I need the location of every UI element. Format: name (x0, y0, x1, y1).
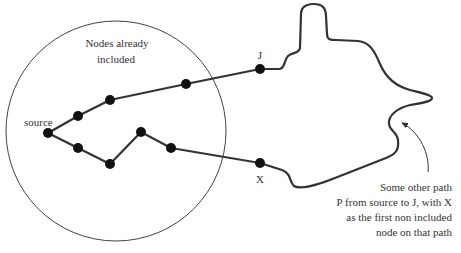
other-path-p (260, 4, 432, 187)
annotation-text: Some other path P from source to J, with… (337, 181, 453, 238)
j-label: J (258, 49, 263, 61)
shortest-path-diagram: Nodes already included source J X Some o… (0, 0, 461, 253)
region-label-line1: Nodes already (85, 37, 149, 49)
annotation-line: as the first non included (346, 211, 452, 223)
node (105, 95, 115, 105)
graph-nodes (43, 64, 265, 169)
node-source (43, 128, 53, 138)
region-label-line2: included (97, 53, 135, 65)
node (73, 143, 83, 153)
node (181, 79, 191, 89)
x-label: X (256, 173, 264, 185)
annotation-line: P from source to J, with X (337, 196, 452, 208)
node (73, 111, 83, 121)
annotation-arrow (402, 123, 428, 172)
node (166, 143, 176, 153)
annotation-line: Some other path (380, 181, 453, 193)
node (105, 159, 115, 169)
node-j (255, 64, 265, 74)
node-x (255, 158, 265, 168)
source-label: source (24, 116, 53, 128)
node (136, 127, 146, 137)
annotation-line: node on that path (376, 226, 453, 238)
